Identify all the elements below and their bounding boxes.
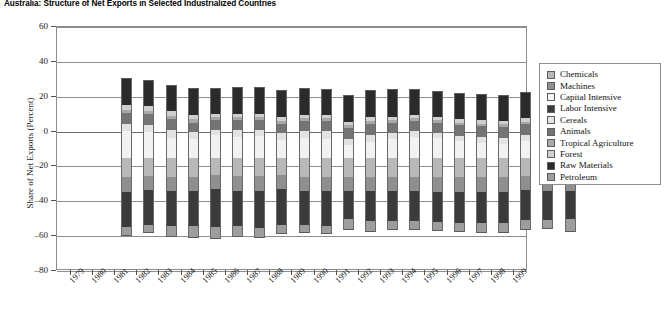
bar-segment xyxy=(476,223,487,233)
y-tick-mark xyxy=(51,61,56,62)
legend-item-petroleum[interactable]: Petroleum xyxy=(547,172,660,183)
y-axis-title: Share of Net Exports (Percent) xyxy=(25,53,35,253)
y-tick-label: 20 xyxy=(39,91,48,101)
bar-segment xyxy=(254,176,265,191)
bar-segment xyxy=(254,228,265,238)
legend-item-animals[interactable]: Animals xyxy=(547,126,660,137)
bar-segment xyxy=(121,177,132,193)
legend-swatch-icon xyxy=(547,128,555,136)
y-tick-label: –20 xyxy=(35,160,49,170)
bar-segment xyxy=(365,135,376,142)
bar-segment xyxy=(520,158,531,176)
bar-1991[interactable] xyxy=(387,53,398,297)
bar-segment xyxy=(520,220,531,230)
bar-segment xyxy=(565,191,576,219)
bar-1994[interactable] xyxy=(454,53,465,297)
bar-segment xyxy=(143,225,154,234)
bar-1995[interactable] xyxy=(476,53,487,297)
bar-1984[interactable] xyxy=(232,53,243,297)
bar-1987[interactable] xyxy=(299,53,310,297)
bar-segment xyxy=(476,137,487,143)
bar-segment xyxy=(188,226,199,237)
y-tick-label: –60 xyxy=(35,230,49,240)
bar-segment xyxy=(121,131,132,158)
bar-1980[interactable] xyxy=(143,53,154,297)
legend-item-labor-intensive[interactable]: Labor Intensive xyxy=(547,103,660,114)
legend-item-cereals[interactable]: Cereals xyxy=(547,115,660,126)
bar-segment xyxy=(409,89,420,115)
bar-segment xyxy=(321,226,332,235)
bar-1979[interactable] xyxy=(121,53,132,297)
bar-1985[interactable] xyxy=(254,53,265,297)
legend-item-raw-materials[interactable]: Raw Materials xyxy=(547,160,660,171)
bar-segment xyxy=(143,158,154,176)
bar-segment xyxy=(365,90,376,118)
legend-label: Animals xyxy=(560,127,591,136)
legend-swatch-icon xyxy=(547,150,555,158)
bar-segment xyxy=(387,158,398,177)
y-tick-mark xyxy=(51,200,56,201)
bar-segment xyxy=(254,136,265,158)
bar-segment xyxy=(321,191,332,226)
bar-1993[interactable] xyxy=(432,53,443,297)
bar-segment xyxy=(387,117,398,120)
bar-segment xyxy=(498,95,509,121)
bar-segment xyxy=(498,144,509,158)
bar-segment xyxy=(520,118,531,121)
bar-segment xyxy=(476,120,487,123)
bar-1983[interactable] xyxy=(210,53,221,297)
bar-segment xyxy=(476,192,487,223)
bar-1990[interactable] xyxy=(365,53,376,297)
bar-1986[interactable] xyxy=(276,53,287,297)
bar-segment xyxy=(232,87,243,114)
bar-segment xyxy=(498,127,509,137)
bar-1996[interactable] xyxy=(498,53,509,297)
bar-segment xyxy=(454,93,465,119)
bar-segment xyxy=(143,125,154,132)
bar-segment xyxy=(210,114,221,117)
legend-item-chemicals[interactable]: Chemicals xyxy=(547,69,660,80)
bar-segment xyxy=(299,138,310,158)
bar-segment xyxy=(232,158,243,176)
legend-item-machines[interactable]: Machines xyxy=(547,80,660,91)
bar-segment xyxy=(520,124,531,134)
bar-segment xyxy=(321,139,332,157)
bar-segment xyxy=(121,124,132,130)
bar-1997[interactable] xyxy=(520,53,531,297)
bar-segment xyxy=(476,143,487,158)
bar-segment xyxy=(166,138,177,158)
bar-segment xyxy=(121,192,132,227)
bar-segment xyxy=(520,190,531,221)
bar-segment xyxy=(409,137,420,158)
bar-1989[interactable] xyxy=(343,53,354,297)
bar-segment xyxy=(343,122,354,125)
bar-segment xyxy=(188,123,199,133)
bar-segment xyxy=(432,177,443,192)
legend-item-forest[interactable]: Forest xyxy=(547,149,660,160)
bar-segment xyxy=(210,227,221,239)
bar-segment xyxy=(299,88,310,115)
legend-item-capital-intensive[interactable]: Capital Intensive xyxy=(547,92,660,103)
bar-segment xyxy=(476,94,487,120)
bar-segment xyxy=(520,122,531,125)
bar-1992[interactable] xyxy=(409,53,420,297)
bar-1981[interactable] xyxy=(166,53,177,297)
bar-segment xyxy=(454,123,465,126)
bar-segment xyxy=(143,132,154,157)
bar-segment xyxy=(188,119,199,122)
bar-segment xyxy=(343,158,354,177)
bar-segment xyxy=(232,120,243,130)
bar-1982[interactable] xyxy=(188,53,199,297)
bar-segment xyxy=(210,135,221,158)
bar-segment xyxy=(232,226,243,236)
bar-segment xyxy=(387,177,398,191)
bar-segment xyxy=(299,158,310,177)
bar-1988[interactable] xyxy=(321,53,332,297)
bar-segment xyxy=(387,139,398,157)
y-tick-mark xyxy=(51,165,56,166)
legend-item-tropical-agriculture[interactable]: Tropical Agriculture xyxy=(547,137,660,148)
bar-segment xyxy=(409,121,420,131)
bar-segment xyxy=(143,111,154,114)
plot-area xyxy=(56,26,527,270)
bar-segment xyxy=(454,192,465,223)
